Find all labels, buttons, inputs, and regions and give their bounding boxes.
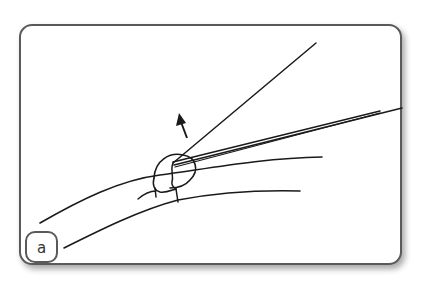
- illustration-frame: a: [0, 0, 444, 281]
- panel-label: a: [37, 239, 46, 257]
